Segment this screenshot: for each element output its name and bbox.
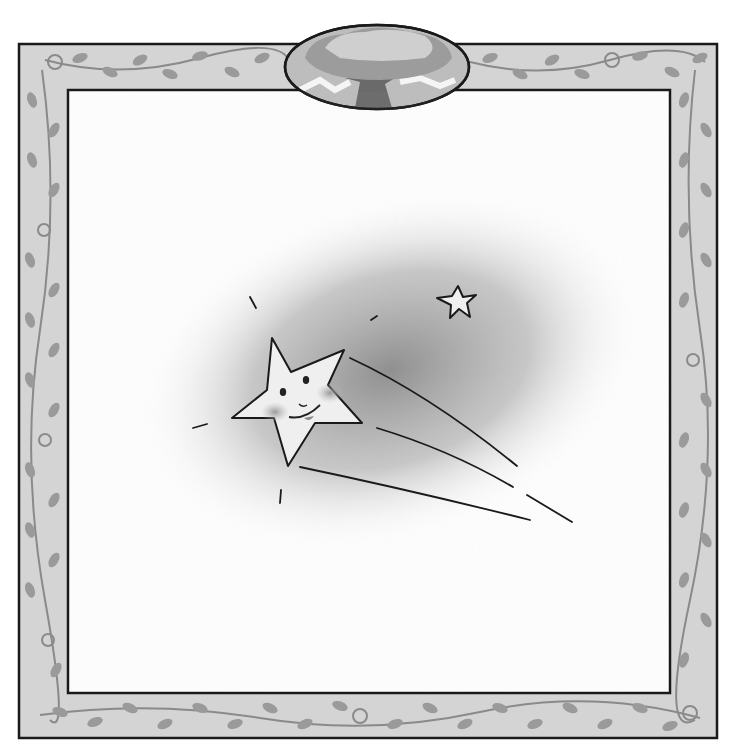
eye-icon bbox=[280, 388, 286, 396]
illustration-canvas bbox=[0, 0, 738, 754]
eye-icon bbox=[303, 376, 309, 384]
grain-texture bbox=[70, 92, 668, 691]
